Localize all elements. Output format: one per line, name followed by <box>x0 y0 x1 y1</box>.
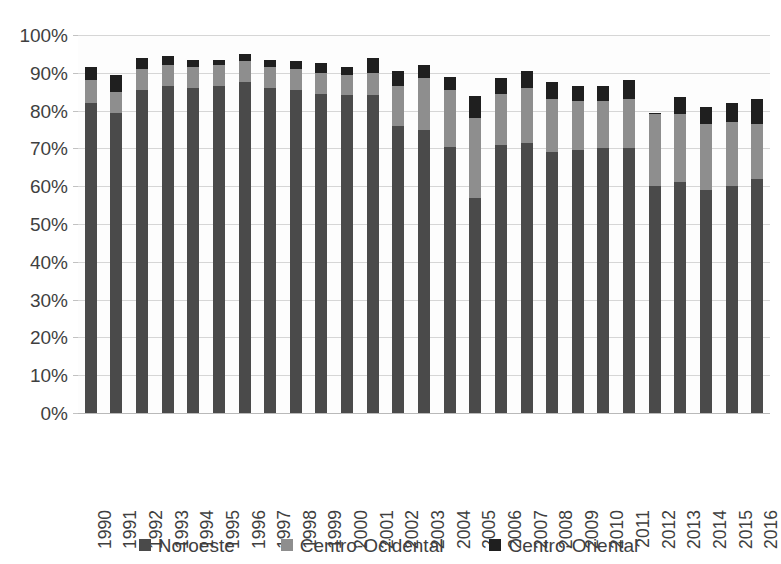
legend-swatch-icon <box>489 539 501 551</box>
bar-segment <box>418 78 430 129</box>
bar-segment <box>110 113 122 414</box>
bar-segment <box>110 92 122 113</box>
bar-group[interactable] <box>521 35 533 413</box>
bar-segment <box>649 113 661 115</box>
bar-group[interactable] <box>572 35 584 413</box>
bar-segment <box>110 75 122 92</box>
legend-label: Noroeste <box>158 536 235 555</box>
bar-segment <box>418 65 430 78</box>
bar-group[interactable] <box>469 35 481 413</box>
bar-segment <box>521 88 533 143</box>
bar-segment <box>726 103 738 122</box>
bar-segment <box>674 182 686 413</box>
bar-segment <box>162 56 174 65</box>
bar-group[interactable] <box>187 35 199 413</box>
bar-group[interactable] <box>444 35 456 413</box>
bar-segment <box>85 80 97 103</box>
bar-segment <box>290 69 302 90</box>
bar-group[interactable] <box>290 35 302 413</box>
bar-segment <box>572 101 584 150</box>
bar-group[interactable] <box>649 35 661 413</box>
bar-group[interactable] <box>213 35 225 413</box>
y-tick-label: 80% <box>30 101 68 120</box>
bar-segment <box>290 61 302 69</box>
legend-item[interactable]: Centro-Ocidental <box>281 536 444 555</box>
bar-segment <box>213 60 225 66</box>
bar-segment <box>315 94 327 413</box>
bar-segment <box>213 86 225 413</box>
bar-segment <box>700 190 712 413</box>
bar-segment <box>239 61 251 82</box>
bar-group[interactable] <box>315 35 327 413</box>
bar-segment <box>315 73 327 94</box>
y-tick-label: 90% <box>30 63 68 82</box>
bar-segment <box>444 77 456 90</box>
bar-segment <box>264 88 276 413</box>
bar-segment <box>392 126 404 413</box>
bar-group[interactable] <box>700 35 712 413</box>
y-tick-label: 50% <box>30 215 68 234</box>
bar-segment <box>444 147 456 413</box>
bar-group[interactable] <box>674 35 686 413</box>
bar-segment <box>521 71 533 88</box>
bar-group[interactable] <box>162 35 174 413</box>
bar-segment <box>649 186 661 413</box>
x-axis: 1990199119921993199419951996199719981999… <box>78 416 770 516</box>
bar-group[interactable] <box>751 35 763 413</box>
bar-group[interactable] <box>85 35 97 413</box>
bar-group[interactable] <box>110 35 122 413</box>
bar-segment <box>264 67 276 88</box>
bar-segment <box>597 86 609 101</box>
plot-area <box>78 35 770 413</box>
bar-group[interactable] <box>367 35 379 413</box>
bar-segment <box>726 122 738 186</box>
bar-segment <box>444 90 456 147</box>
bar-segment <box>85 103 97 413</box>
bar-segment <box>469 118 481 197</box>
bar-group[interactable] <box>239 35 251 413</box>
bar-segment <box>649 114 661 186</box>
legend-label: Centro-Oriental <box>508 536 638 555</box>
bar-segment <box>495 145 507 413</box>
legend-label: Centro-Ocidental <box>300 536 444 555</box>
bar-segment <box>187 88 199 413</box>
bar-segment <box>521 143 533 413</box>
bar-segment <box>341 75 353 96</box>
bar-group[interactable] <box>623 35 635 413</box>
bar-segment <box>187 67 199 88</box>
bar-group[interactable] <box>264 35 276 413</box>
y-tick-label: 20% <box>30 328 68 347</box>
bar-segment <box>572 86 584 101</box>
bar-group[interactable] <box>136 35 148 413</box>
bar-segment <box>187 60 199 68</box>
bar-segment <box>85 67 97 80</box>
bar-segment <box>136 69 148 90</box>
bar-group[interactable] <box>597 35 609 413</box>
bar-group[interactable] <box>546 35 558 413</box>
bar-segment <box>290 90 302 413</box>
bar-segment <box>213 65 225 86</box>
bar-segment <box>162 65 174 86</box>
bar-segment <box>264 60 276 68</box>
bar-group[interactable] <box>392 35 404 413</box>
bar-group[interactable] <box>726 35 738 413</box>
legend-item[interactable]: Centro-Oriental <box>489 536 638 555</box>
bar-segment <box>341 67 353 75</box>
bar-segment <box>469 198 481 413</box>
bar-segment <box>392 71 404 86</box>
bar-group[interactable] <box>341 35 353 413</box>
legend-swatch-icon <box>281 539 293 551</box>
y-tick-label: 70% <box>30 139 68 158</box>
bar-segment <box>623 80 635 99</box>
y-tick-label: 0% <box>41 404 68 423</box>
bar-group[interactable] <box>495 35 507 413</box>
bar-segment <box>751 124 763 179</box>
legend-item[interactable]: Noroeste <box>139 536 235 555</box>
bar-group[interactable] <box>418 35 430 413</box>
bar-segment <box>674 97 686 114</box>
y-tick-label: 30% <box>30 290 68 309</box>
bar-segment <box>239 54 251 62</box>
bar-segment <box>367 95 379 413</box>
bar-segment <box>469 96 481 119</box>
